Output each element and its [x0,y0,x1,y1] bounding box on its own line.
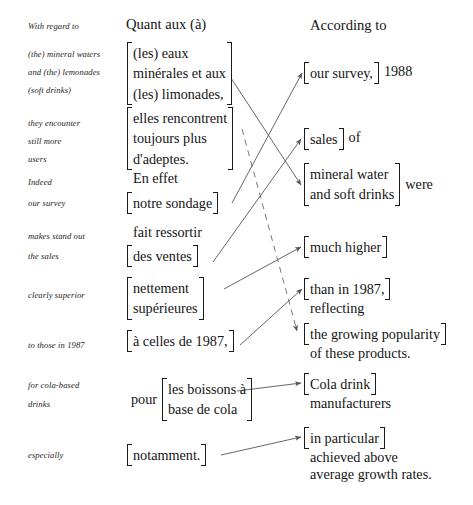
french-line: supérieures [133,298,198,318]
bracket-group: notre sondage [126,192,219,214]
french-line: En effet [133,169,178,188]
english-line: mineral water [310,164,394,184]
gloss-line: still more [28,132,80,150]
french-line: toujours plus [133,128,227,148]
french-group-f8: à celles de 1987, [126,330,235,352]
connector-f8-e5 [240,289,302,345]
french-line: base de cola [168,399,246,419]
french-line: des ventes [133,246,192,266]
gloss-group-especially: especially [28,446,63,464]
french-group-f9: pour les boissons à base de cola [131,378,253,421]
french-group-f5: fait ressortir [133,223,202,242]
gloss-line: clearly superior [28,286,85,304]
english-group-e8: in particular achieved above average gro… [303,427,432,483]
bracket-group: (les) eaux minérales et aux (les) limona… [126,42,233,105]
french-line: notre sondage [133,193,212,213]
english-line: our survey, [310,63,373,83]
english-continuation: average growth rates. [303,466,432,483]
gloss-line: (soft drinks) [28,81,100,99]
french-line: (les) limonades, [133,84,226,104]
gloss-group-to-those-in-1987: to those in 1987 [28,336,85,354]
french-header-text: Quant aux (à) [126,16,206,32]
gloss-group-indeed: Indeed our survey [28,173,66,216]
french-prefix: pour [131,378,161,409]
bracket-group: notamment. [126,444,207,466]
gloss-line: for cola-based [28,376,79,394]
english-line: the growing popularity [310,324,440,344]
english-suffix: of [345,128,361,147]
french-line: elles rencontrent [133,108,227,128]
gloss-group-mineral-waters: (the) mineral waters and (the) lemonades… [28,45,100,100]
english-group-e1: our survey, 1988 [303,62,412,84]
connector-f7-e4 [224,247,301,289]
bracket-group: in particular [303,427,386,449]
french-group-f2: elles rencontrent toujours plus d'adepte… [126,107,234,170]
english-continuation: of these products. [303,345,447,362]
gloss-group-makes-stand-out: makes stand out the sales [28,227,85,267]
gloss-line: drinks [28,394,79,415]
english-header-text: According to [310,17,387,33]
english-continuation: reflecting [303,300,391,317]
connector-f4-e1 [232,73,302,203]
english-continuation: achieved above [303,449,432,466]
french-group-f4: notre sondage [126,192,219,214]
english-line: much higher [310,237,381,257]
french-column-header: Quant aux (à) [126,16,206,33]
french-line: fait ressortir [133,223,202,242]
gloss-line: Indeed [28,173,66,191]
french-group-f1: (les) eaux minérales et aux (les) limona… [126,42,233,105]
english-group-e3: mineral water and soft drinks were [303,163,433,206]
french-line: les boissons à [168,379,246,399]
gloss-group-clearly-superior: clearly superior [28,286,85,304]
gloss-line: they encounter [28,114,80,132]
english-line: than in 1987, [310,279,384,299]
french-group-f7: nettement supérieures [126,277,205,320]
english-group-e5: than in 1987, reflecting [303,278,391,317]
gloss-group-cola-based: for cola-based drinks [28,376,79,415]
bracket-group: Cola drink [303,373,377,395]
gloss-line: With regard to [28,17,79,35]
french-line: à celles de 1987, [133,331,228,351]
translation-diagram: With regard to (the) mineral waters and … [0,0,473,505]
french-line: notamment. [133,445,200,465]
bracket-group: à celles de 1987, [126,330,235,352]
french-line: nettement [133,278,198,298]
connector-f2-e6-dashed [242,129,297,331]
english-group-e2: sales of [303,128,360,150]
english-group-e6: the growing popularity of these products… [303,323,447,362]
bracket-group: our survey, [303,62,380,84]
gloss-line: makes stand out [28,227,85,245]
bracket-group: elles rencontrent toujours plus d'adepte… [126,107,234,170]
connector-f10-e8 [221,437,301,455]
bracket-group: the growing popularity [303,323,447,345]
english-continuation: manufacturers [303,395,391,412]
bracket-group: than in 1987, [303,278,391,300]
english-line: and soft drinks [310,184,394,204]
gloss-group-they-encounter: they encounter still more users [28,114,80,169]
french-group-f6: des ventes [126,245,199,267]
english-group-e4: much higher [303,236,388,258]
english-suffix: were [401,163,433,194]
french-line: (les) eaux [133,43,226,63]
gloss-line: users [28,150,80,168]
english-line: Cola drink [310,374,370,394]
english-line: sales [310,129,338,149]
connector-f1-e3 [231,78,301,185]
bracket-group: des ventes [126,245,199,267]
french-group-f3: En effet [133,169,178,188]
gloss-line: the sales [28,245,85,267]
gloss-line: our survey [28,191,66,216]
english-column-header: According to [310,17,387,34]
french-line: d'adeptes. [133,149,227,169]
gloss-line: and (the) lemonades [28,63,100,81]
bracket-group: nettement supérieures [126,277,205,320]
bracket-group: mineral water and soft drinks [303,163,401,206]
gloss-header: With regard to [28,17,79,35]
english-suffix: 1988 [380,62,412,81]
english-line: in particular [310,428,379,448]
gloss-line: to those in 1987 [28,336,85,354]
bracket-group: sales [303,128,345,150]
french-group-f10: notamment. [126,444,207,466]
gloss-line: (the) mineral waters [28,45,100,63]
gloss-line: especially [28,446,63,464]
